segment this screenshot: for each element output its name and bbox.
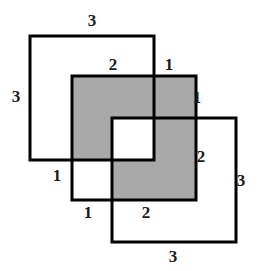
shaded-region-group [72, 76, 196, 200]
label-top-2: 2 [109, 56, 118, 73]
lower-left-white-pocket [72, 160, 112, 200]
overlapping-squares-svg [0, 0, 260, 271]
label-bottom-3: 3 [169, 248, 178, 265]
label-right-upper-1: 1 [193, 89, 202, 106]
label-left-lower-1: 1 [53, 167, 62, 184]
triple-overlap-white-pocket [112, 118, 154, 160]
label-right-2: 2 [197, 148, 206, 165]
label-left-3: 3 [12, 88, 21, 105]
label-top-3: 3 [88, 12, 97, 29]
label-bottom-1: 1 [84, 204, 93, 221]
geometry-figure: 3 3 2 1 1 2 3 1 1 2 3 [0, 0, 260, 271]
label-top-1: 1 [165, 56, 174, 73]
label-far-right-3: 3 [237, 172, 246, 189]
label-bottom-2: 2 [142, 204, 151, 221]
